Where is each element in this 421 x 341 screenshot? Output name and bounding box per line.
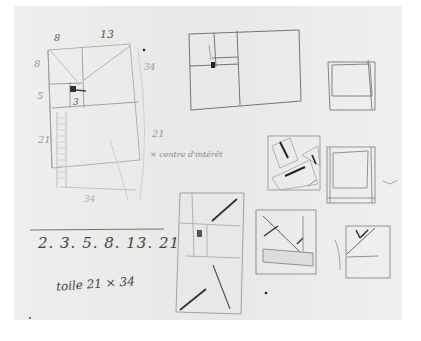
golden-spiral-grid — [48, 44, 145, 200]
large-rectangle-composition — [189, 30, 301, 110]
label-34-side: 34 — [144, 62, 155, 72]
sequence-underline — [30, 229, 164, 230]
small-square-top-right — [328, 60, 375, 110]
label-8-top: 8 — [54, 32, 60, 43]
label-5-left: 5 — [37, 90, 43, 101]
triangle-composition — [256, 210, 316, 274]
nested-squares — [327, 147, 375, 203]
tilted-planes-square — [268, 136, 320, 190]
fibonacci-sequence: 2. 3. 5. 8. 13. 21 — [38, 234, 180, 252]
label-34-bottom: 34 — [84, 194, 95, 204]
dot-mark-small — [29, 317, 31, 319]
label-21-right: 21 — [152, 128, 165, 139]
label-21-left: 21 — [38, 134, 51, 145]
vertical-diagonal-composition — [176, 193, 244, 314]
label-3-inner: 3 — [73, 97, 79, 107]
legend-note: × centre d'intérêt — [150, 150, 223, 159]
label-8-left: 8 — [34, 58, 40, 69]
scribble-mark — [383, 180, 398, 184]
label-13-top: 13 — [100, 28, 114, 41]
small-triangle-square — [335, 226, 390, 278]
dot-mark — [265, 292, 268, 295]
